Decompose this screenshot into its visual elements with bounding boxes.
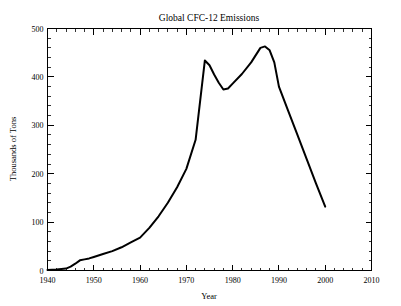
x-tick-label: 1990 — [271, 276, 287, 285]
chart-title: Global CFC-12 Emissions — [159, 13, 260, 23]
y-axis-title: Thousands of Tons — [8, 117, 18, 181]
data-series-line — [48, 46, 326, 270]
y-tick-label: 100 — [32, 218, 44, 227]
y-tick-label: 300 — [32, 121, 44, 130]
x-axis-title: Year — [201, 291, 217, 301]
x-tick-label: 2010 — [364, 276, 380, 285]
x-tick-label: 2000 — [317, 276, 333, 285]
y-tick-label: 0 — [40, 267, 44, 276]
x-tick-label: 1950 — [86, 276, 102, 285]
y-tick-label: 400 — [32, 73, 44, 82]
x-tick-label: 1960 — [132, 276, 148, 285]
x-tick-label: 1970 — [178, 276, 194, 285]
x-tick-label: 1940 — [40, 276, 56, 285]
y-tick-label: 200 — [32, 170, 44, 179]
y-axis-tick-labels: 0100200300400500 — [32, 25, 44, 276]
x-tick-label: 1980 — [225, 276, 241, 285]
chart-figure: Global CFC-12 Emissions 0100200300400500… — [0, 0, 401, 306]
y-tick-label: 500 — [32, 25, 44, 34]
line-chart: Global CFC-12 Emissions 0100200300400500… — [0, 0, 401, 306]
x-axis-tick-labels: 19401950196019701980199020002010 — [40, 276, 380, 285]
